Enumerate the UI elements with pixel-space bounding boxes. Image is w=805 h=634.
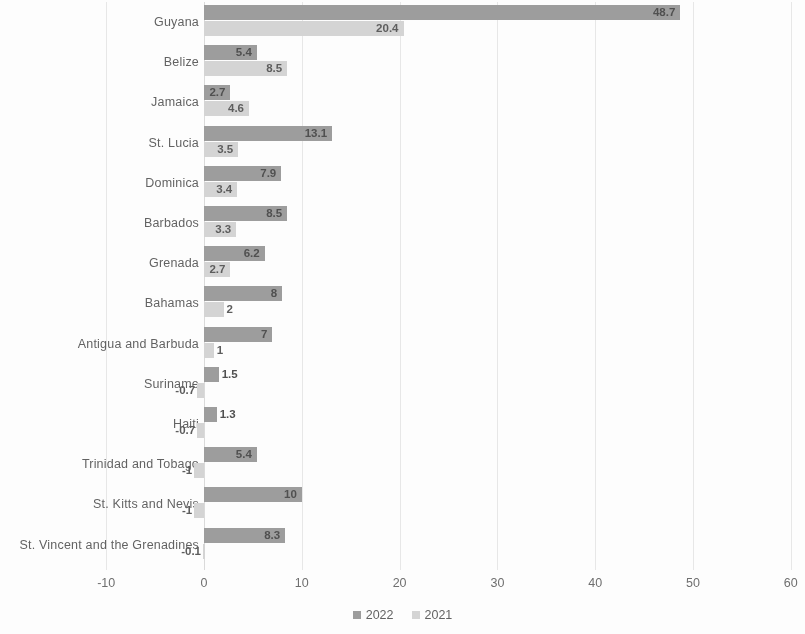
x-axis-tick-label: -10	[97, 576, 115, 590]
legend-swatch-icon	[412, 611, 420, 619]
legend-item[interactable]: 2022	[353, 608, 394, 622]
x-axis: -100102030405060	[0, 570, 805, 600]
x-axis-tick-label: 30	[490, 576, 504, 590]
category-label: Belize	[164, 55, 199, 69]
bar-2021	[194, 463, 204, 478]
category-label: Bahamas	[145, 296, 199, 310]
x-axis-tick-label: 0	[201, 576, 208, 590]
bar-value-label: 7	[261, 327, 272, 342]
category-label: St. Vincent and the Grenadines	[20, 538, 200, 552]
bar-value-label: 5.4	[236, 45, 257, 60]
x-axis-tick-label: 20	[393, 576, 407, 590]
bar-value-label: 13.1	[305, 126, 332, 141]
bar-value-label: 8	[271, 286, 282, 301]
x-axis-tick-label: 10	[295, 576, 309, 590]
bar-value-label: -0.7	[175, 383, 197, 398]
x-axis-tick-label: 60	[784, 576, 798, 590]
legend-item[interactable]: 2021	[412, 608, 453, 622]
bar-value-label: 48.7	[653, 5, 680, 20]
chart-row: Grenada6.22.7	[0, 243, 805, 283]
legend-swatch-icon	[353, 611, 361, 619]
bar-value-label: -0.1	[181, 544, 203, 559]
bar-value-label: 2.7	[209, 85, 230, 100]
category-label: Grenada	[149, 256, 199, 270]
legend-label: 2021	[425, 608, 453, 622]
bar-value-label: 8.5	[266, 206, 287, 221]
bar-value-label: -1	[182, 503, 194, 518]
bar-value-label: 2	[224, 302, 233, 317]
bar-value-label: -0.7	[175, 423, 197, 438]
bar-value-label: 8.3	[264, 528, 285, 543]
category-label: Antigua and Barbuda	[78, 337, 199, 351]
bar-2021	[203, 544, 205, 559]
chart-row: Antigua and Barbuda71	[0, 324, 805, 364]
category-label: Guyana	[154, 15, 199, 29]
bar-value-label: 3.3	[215, 222, 236, 237]
bar-value-label: 1.5	[219, 367, 238, 382]
category-label: Jamaica	[151, 95, 199, 109]
bar-value-label: 2.7	[209, 262, 230, 277]
category-label: Barbados	[144, 216, 199, 230]
bar-2021	[197, 423, 204, 438]
bar-2022	[204, 407, 217, 422]
bar-value-label: -1	[182, 463, 194, 478]
bar-value-label: 1.3	[217, 407, 236, 422]
bar-2021	[204, 343, 214, 358]
bar-value-label: 10	[284, 487, 302, 502]
bar-value-label: 3.5	[217, 142, 238, 157]
chart-legend: 20222021	[0, 608, 805, 622]
bar-chart: Guyana48.720.4Belize5.48.5Jamaica2.74.6S…	[0, 0, 805, 634]
chart-row: St. Kitts and Nevis10-1	[0, 484, 805, 524]
bar-value-label: 5.4	[236, 447, 257, 462]
bar-value-label: 8.5	[266, 61, 287, 76]
bar-2021	[197, 383, 204, 398]
legend-label: 2022	[366, 608, 394, 622]
bar-2022	[204, 5, 680, 20]
x-axis-tick-label: 40	[588, 576, 602, 590]
bar-value-label: 20.4	[376, 21, 403, 36]
chart-row: Bahamas82	[0, 283, 805, 323]
bar-value-label: 6.2	[244, 246, 265, 261]
category-label: Dominica	[145, 176, 199, 190]
chart-row: Jamaica2.74.6	[0, 82, 805, 122]
chart-row: Dominica7.93.4	[0, 163, 805, 203]
category-label: St. Lucia	[149, 136, 199, 150]
bar-value-label: 3.4	[216, 182, 237, 197]
bar-2022	[204, 367, 219, 382]
chart-row: St. Vincent and the Grenadines8.3-0.1	[0, 525, 805, 565]
chart-row: Trinidad and Tobago5.4-1	[0, 444, 805, 484]
chart-row: Guyana48.720.4	[0, 2, 805, 42]
chart-row: Barbados8.53.3	[0, 203, 805, 243]
chart-row: Haiti1.3-0.7	[0, 404, 805, 444]
x-axis-tick-label: 50	[686, 576, 700, 590]
bar-2021	[204, 21, 404, 36]
chart-row: Suriname1.5-0.7	[0, 364, 805, 404]
bar-2021	[204, 302, 224, 317]
chart-row: Belize5.48.5	[0, 42, 805, 82]
plot-area: Guyana48.720.4Belize5.48.5Jamaica2.74.6S…	[0, 0, 805, 570]
bar-value-label: 7.9	[260, 166, 281, 181]
bar-2021	[194, 503, 204, 518]
bar-value-label: 1	[214, 343, 223, 358]
bar-value-label: 4.6	[228, 101, 249, 116]
chart-row: St. Lucia13.13.5	[0, 123, 805, 163]
